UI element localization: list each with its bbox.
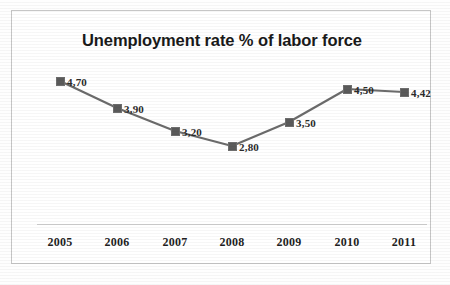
scanned-page: Unemployment rate % of labor force 4,703… (0, 0, 450, 285)
plot-area: 4,703,903,202,803,504,504,42 20052006200… (12, 11, 430, 263)
data-point-label: 3,90 (124, 104, 144, 115)
data-point-label: 4,70 (67, 77, 87, 88)
data-point-marker[interactable] (228, 142, 237, 151)
x-axis-tick-labels: 2005200620072008200920102011 (12, 235, 430, 255)
data-point-label: 4,42 (411, 88, 431, 99)
x-axis-tick-label-2007: 2007 (153, 235, 197, 249)
data-point-marker[interactable] (285, 118, 294, 127)
screenshot-root: Unemployment rate % of labor force 4,703… (0, 0, 450, 285)
chart-frame: Unemployment rate % of labor force 4,703… (11, 10, 431, 264)
x-axis-tick-label-2011: 2011 (382, 235, 426, 249)
x-axis-tick-label-2008: 2008 (210, 235, 254, 249)
x-axis-tick-label-2005: 2005 (38, 235, 82, 249)
data-point-marker[interactable] (343, 85, 352, 94)
data-point-label: 2,80 (239, 142, 259, 153)
data-point-marker[interactable] (56, 77, 65, 86)
x-axis-tick-label-2010: 2010 (325, 235, 369, 249)
x-axis-tick-label-2009: 2009 (267, 235, 311, 249)
line-series-path (12, 11, 430, 263)
data-point-marker[interactable] (400, 88, 409, 97)
data-point-label: 4,50 (354, 85, 374, 96)
data-point-marker[interactable] (113, 104, 122, 113)
category-axis-line (37, 224, 427, 225)
data-point-label: 3,20 (182, 127, 202, 138)
x-axis-tick-label-2006: 2006 (95, 235, 139, 249)
data-point-label: 3,50 (296, 118, 316, 129)
data-point-marker[interactable] (171, 127, 180, 136)
